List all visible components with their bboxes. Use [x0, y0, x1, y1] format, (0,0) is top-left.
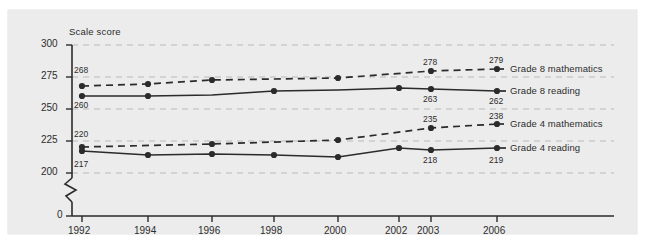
value-label-grade-8-mathematics-1992: 268	[74, 66, 88, 75]
y-tick-label-250: 250	[41, 103, 58, 113]
value-label-grade-8-reading-2006: 262	[489, 97, 503, 106]
y-tick-label-225: 225	[41, 135, 58, 145]
x-tick-label-2006: 2006	[483, 226, 505, 236]
y-tick-marks	[66, 45, 72, 216]
y-tick-label-200: 200	[41, 167, 58, 177]
data-point	[145, 81, 151, 87]
value-label-grade-4-mathematics-1992: 220	[74, 130, 88, 139]
legend-item-grade-8-reading: Grade 8 reading	[510, 86, 580, 96]
y-tick-label-0: 0	[57, 210, 63, 220]
x-tick-label-1998: 1998	[260, 226, 282, 236]
x-tick-label-2000: 2000	[324, 226, 346, 236]
x-tick-marks	[82, 216, 497, 222]
x-tick-label-2002: 2002	[385, 226, 407, 236]
data-point	[335, 75, 341, 81]
x-tick-label-1996: 1996	[198, 226, 220, 236]
data-point	[428, 86, 434, 92]
data-point	[145, 152, 151, 158]
series-grade-4-mathematics	[79, 121, 500, 150]
legend-item-grade-8-mathematics: Grade 8 mathematics	[510, 64, 603, 74]
legend-item-grade-4-mathematics: Grade 4 mathematics	[510, 119, 603, 129]
value-label-grade-4-reading-2006: 219	[489, 156, 503, 165]
legend-item-grade-4-reading: Grade 4 reading	[510, 143, 580, 153]
x-tick-label-2003: 2003	[417, 226, 439, 236]
y-axis-title: Scale score	[69, 27, 121, 37]
value-label-grade-4-mathematics-2006: 238	[489, 112, 503, 121]
figure-container: Scale score 300 275 250 225 200 0 1992 1…	[0, 0, 645, 247]
data-point	[428, 125, 434, 131]
series-line-grade-4-mathematics	[82, 124, 497, 147]
value-label-grade-4-mathematics-2003: 235	[423, 115, 437, 124]
data-point	[79, 148, 85, 154]
data-point	[428, 68, 434, 74]
data-point	[209, 77, 215, 83]
data-point	[396, 85, 402, 91]
value-label-grade-8-mathematics-2006: 279	[489, 56, 503, 65]
value-label-grade-4-reading-2003: 218	[423, 156, 437, 165]
y-tick-label-300: 300	[41, 39, 58, 49]
data-point	[145, 93, 151, 99]
value-label-grade-4-reading-1992: 217	[74, 160, 88, 169]
data-point	[271, 88, 277, 94]
y-axis-break-zigzag	[65, 178, 76, 202]
x-tick-label-1994: 1994	[134, 226, 156, 236]
data-point	[209, 141, 215, 147]
value-label-grade-8-reading-1992: 260	[74, 101, 88, 110]
series-line-grade-8-mathematics	[82, 69, 497, 86]
data-point	[335, 154, 341, 160]
y-tick-label-275: 275	[41, 71, 58, 81]
value-label-grade-8-reading-2003: 263	[423, 95, 437, 104]
value-label-grade-8-mathematics-2003: 278	[423, 58, 437, 67]
data-point	[79, 83, 85, 89]
data-point	[335, 137, 341, 143]
data-point	[396, 145, 402, 151]
data-point	[271, 152, 277, 158]
x-tick-label-1992: 1992	[68, 226, 90, 236]
data-point	[79, 93, 85, 99]
data-point	[209, 151, 215, 157]
data-point	[428, 147, 434, 153]
